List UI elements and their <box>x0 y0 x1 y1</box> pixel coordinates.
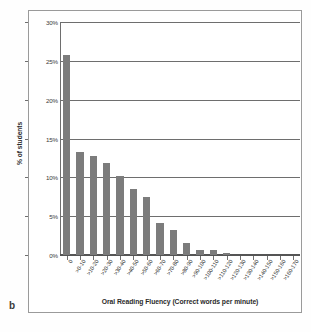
plot-area <box>60 22 300 255</box>
bar-slot <box>87 22 100 255</box>
x-label-slot: >40-50 <box>127 260 140 300</box>
y-tick-mark <box>25 216 28 217</box>
bar <box>116 176 123 255</box>
y-axis-tick-labels: 30%25%20%15%10%5%0% <box>28 22 58 255</box>
x-label-slot: >100-110 <box>207 260 220 300</box>
bar <box>76 152 83 255</box>
figure-panel: b % of students 30%25%20%15%10%5%0% 0>0-… <box>0 0 311 332</box>
x-tick-label-text: >10-20 <box>86 258 100 276</box>
bar <box>143 197 150 255</box>
y-tick-mark <box>25 255 28 256</box>
bar <box>130 189 137 255</box>
x-label-slot: >0-10 <box>73 260 86 300</box>
bar-slot <box>140 22 153 255</box>
bar-slot <box>167 22 180 255</box>
y-tick-label: 5% <box>49 213 58 220</box>
x-tick-label-text: >70-80 <box>166 258 180 276</box>
x-tick-label-text: >40-50 <box>126 258 140 276</box>
y-tick-label: 20% <box>46 96 58 103</box>
x-tick-label-text: >60-70 <box>152 258 166 276</box>
figure-panel-label: b <box>9 300 15 311</box>
x-tick-label-text: >30-40 <box>112 258 126 276</box>
y-tick-mark <box>25 177 28 178</box>
bar <box>90 156 97 255</box>
y-tick-label: 10% <box>46 174 58 181</box>
bar-slot <box>273 22 286 255</box>
x-label-slot: >20-30 <box>100 260 113 300</box>
x-label-slot: >30-40 <box>113 260 126 300</box>
bar-series <box>60 22 300 255</box>
x-label-slot: >70-80 <box>167 260 180 300</box>
x-label-slot: >10-20 <box>87 260 100 300</box>
bar-slot <box>247 22 260 255</box>
x-label-slot: 0 <box>60 260 73 300</box>
x-label-slot: >80-90 <box>180 260 193 300</box>
y-tick-label: 0% <box>49 252 58 259</box>
x-tick-label-text: >20-30 <box>99 258 113 276</box>
x-label-slot: >60-70 <box>153 260 166 300</box>
bar-slot <box>260 22 273 255</box>
bar-slot <box>153 22 166 255</box>
y-tick-label: 25% <box>46 57 58 64</box>
bar-slot <box>220 22 233 255</box>
bar <box>63 55 70 255</box>
y-axis-title: % of students <box>16 122 23 165</box>
bar-slot <box>113 22 126 255</box>
bar-slot <box>287 22 300 255</box>
bar-slot <box>100 22 113 255</box>
x-axis-tick-labels: 0>0-10>10-20>20-30>30-40>40-50>50-60>60-… <box>60 260 300 300</box>
y-tick-mark <box>25 61 28 62</box>
y-tick-mark <box>25 100 28 101</box>
bar-slot <box>60 22 73 255</box>
bar-slot <box>180 22 193 255</box>
bar-slot <box>233 22 246 255</box>
x-tick-label-text: >50-60 <box>139 258 153 276</box>
x-label-slot: >50-60 <box>140 260 153 300</box>
y-tick-label: 30% <box>46 19 58 26</box>
x-tick-label-text: 0 <box>67 258 74 264</box>
bar-slot <box>127 22 140 255</box>
y-tick-mark <box>25 139 28 140</box>
bar-slot <box>193 22 206 255</box>
x-label-slot: >160-170 <box>287 260 300 300</box>
y-tick-mark <box>25 22 28 23</box>
bar-slot <box>73 22 86 255</box>
y-tick-label: 15% <box>46 135 58 142</box>
x-axis-title: Oral Reading Fluency (Correct words per … <box>60 298 300 305</box>
bar-slot <box>207 22 220 255</box>
bar <box>103 163 110 255</box>
